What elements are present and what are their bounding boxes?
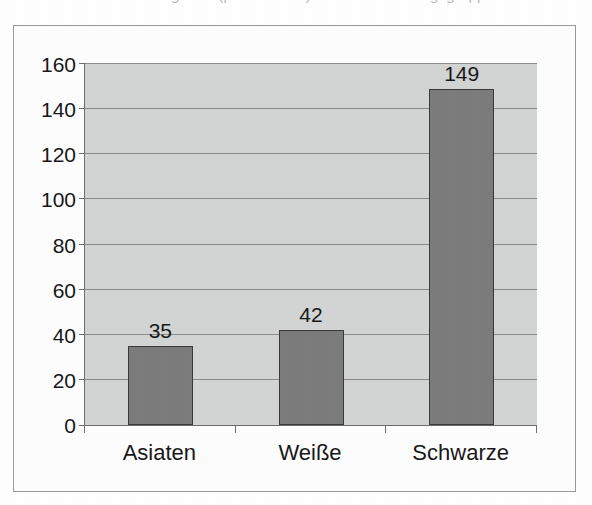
y-axis-tick-mark [79, 153, 85, 154]
y-axis-tick-mark [79, 63, 85, 64]
y-axis-tick-mark [79, 334, 85, 335]
y-axis-tick-label: 60 [53, 280, 76, 301]
bar [429, 89, 494, 425]
y-axis-tick-labels: 020406080100120140160 [14, 64, 76, 425]
y-axis-tick-label: 120 [41, 144, 76, 165]
chart-frame: 020406080100120140160 3542149 AsiatenWei… [13, 25, 576, 492]
y-axis-tick-mark [79, 244, 85, 245]
x-axis-tick-mark [536, 425, 537, 433]
y-axis-tick-mark [79, 198, 85, 199]
bar-value-label: 42 [266, 304, 356, 325]
y-axis-tick-label: 0 [64, 415, 76, 436]
x-axis-tick-mark [235, 425, 236, 433]
x-axis-category-label: Asiaten [79, 442, 239, 464]
bar [279, 330, 344, 425]
y-axis-tick-label: 100 [41, 189, 76, 210]
y-axis-tick-label: 40 [53, 325, 76, 346]
y-axis-tick-mark [79, 108, 85, 109]
x-axis-category-label: Weiße [230, 442, 390, 464]
x-axis-tick-mark [385, 425, 386, 433]
plot-area: 3542149 [84, 64, 537, 426]
y-axis-tick-label: 160 [41, 54, 76, 75]
x-axis-category-label: Schwarze [381, 442, 541, 464]
x-axis-tick-mark [84, 425, 85, 433]
y-axis-tick-label: 20 [53, 370, 76, 391]
bar-value-label: 35 [115, 320, 205, 341]
y-axis-tick-label: 140 [41, 99, 76, 120]
cropped-title-remnant: Inhaftierungsrate (pro 100.000) nach Bev… [0, 0, 592, 13]
y-axis-tick-mark [79, 289, 85, 290]
y-axis-tick-mark [79, 379, 85, 380]
bar-value-label: 149 [417, 63, 507, 84]
y-axis-tick-label: 80 [53, 235, 76, 256]
bar [128, 346, 193, 425]
